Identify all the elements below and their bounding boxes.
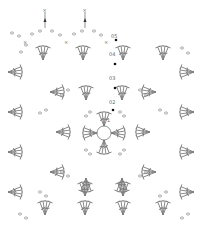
svg-text:04: 04 (109, 51, 115, 57)
stitch-fans (7, 46, 195, 216)
join-arrow-icon: × (43, 7, 47, 28)
svg-text:×: × (64, 39, 68, 45)
crochet-diagram: × × × × × (0, 0, 202, 240)
svg-text:×: × (43, 7, 47, 13)
chain-arc: × × × (10, 30, 189, 54)
svg-text:1: 1 (107, 117, 110, 123)
svg-text:02: 02 (109, 99, 115, 105)
join-arrow-icon: × (83, 7, 87, 28)
svg-text:×: × (104, 39, 108, 45)
magic-ring-icon (83, 112, 125, 154)
round-labels: 05 04 03 02 1 (107, 33, 117, 123)
svg-text:×: × (83, 7, 87, 13)
svg-text:03: 03 (109, 75, 115, 81)
svg-text:×: × (23, 39, 27, 45)
svg-text:05: 05 (111, 33, 117, 39)
